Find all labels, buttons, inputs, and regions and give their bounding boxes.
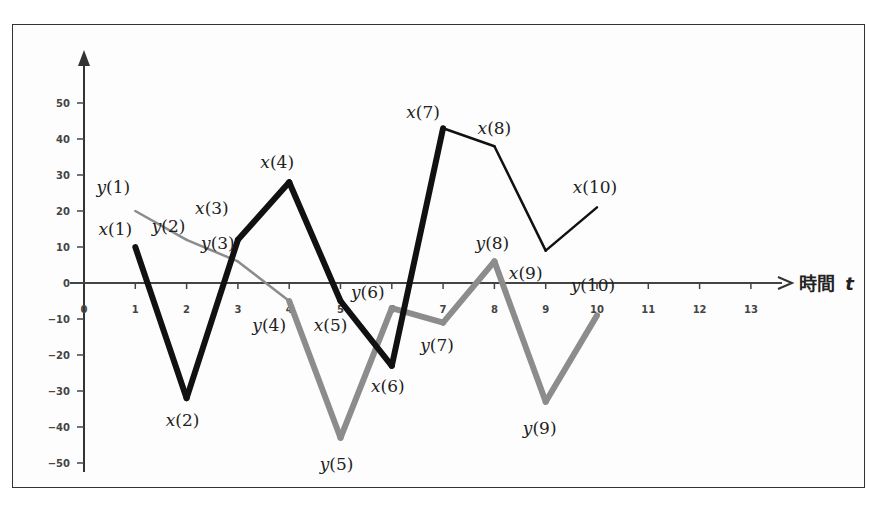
x-tick-label: 0 — [81, 304, 88, 315]
x-point-label: x(5) — [314, 315, 348, 335]
y-point-label: y(7) — [419, 335, 454, 355]
x-segment — [392, 128, 443, 366]
y-tick-label: 50 — [56, 98, 70, 109]
label-index: (10) — [582, 177, 617, 197]
label-index: (8) — [485, 233, 509, 253]
x-point-label: x(4) — [260, 152, 294, 172]
x-segment — [135, 247, 186, 398]
label-variable: x — [371, 376, 381, 396]
label-index: (6) — [361, 282, 385, 302]
y-point-label: y(1) — [95, 177, 130, 197]
x-axis-title-text: 時間 — [799, 273, 835, 294]
x-tick-label: 7 — [440, 304, 447, 315]
x-segment — [187, 240, 238, 398]
y-tick-label: −50 — [48, 458, 70, 469]
y-tick-label: −30 — [48, 386, 70, 397]
label-index: (9) — [518, 263, 542, 283]
x-tick-label: 1 — [132, 304, 139, 315]
y-point-label: y(2) — [151, 216, 186, 236]
label-variable: y — [319, 454, 330, 474]
label-variable: y — [475, 233, 486, 253]
x-segment — [238, 182, 289, 240]
x-axis-title-var: t — [845, 273, 855, 294]
x-tick-label: 3 — [234, 304, 241, 315]
label-index: (3) — [205, 198, 229, 218]
label-variable: y — [251, 315, 262, 335]
point-labels: x(1)x(2)x(3)x(4)x(5)x(6)x(7)x(8)x(9)x(10… — [95, 102, 617, 474]
y-segment — [546, 315, 597, 401]
y-axis-arrow-icon — [78, 50, 90, 66]
y-point-label: y(4) — [251, 315, 286, 335]
label-variable: x — [314, 315, 324, 335]
label-variable: y — [419, 335, 430, 355]
label-index: (1) — [106, 177, 130, 197]
x-segment — [546, 207, 597, 250]
y-tick-label: −10 — [48, 314, 70, 325]
label-index: (5) — [323, 315, 347, 335]
label-variable: x — [509, 263, 519, 283]
x-tick-label: 2 — [183, 304, 190, 315]
label-index: (10) — [580, 275, 615, 295]
x-point-label: x(9) — [509, 263, 543, 283]
x-point-label: x(2) — [166, 410, 200, 430]
label-index: (9) — [532, 418, 556, 438]
y-segment — [341, 308, 392, 438]
label-index: (1) — [108, 219, 132, 239]
x-point-label: x(6) — [371, 376, 405, 396]
y-tick-label: 10 — [56, 242, 70, 253]
label-variable: x — [573, 177, 583, 197]
x-point-label: x(7) — [406, 102, 440, 122]
y-tick-label: 40 — [56, 134, 70, 145]
y-point-label: y(8) — [475, 233, 510, 253]
x-tick-label: 13 — [744, 304, 758, 315]
label-index: (8) — [487, 118, 511, 138]
y-tick-label: 20 — [56, 206, 70, 217]
y-tick-label: 30 — [56, 170, 70, 181]
y-tick-label: −20 — [48, 350, 70, 361]
y-tick-label: 0 — [63, 278, 70, 289]
x-axis-title: 時間 t — [799, 273, 855, 294]
label-index: (4) — [270, 152, 294, 172]
x-tick-label: 12 — [693, 304, 707, 315]
label-index: (7) — [416, 102, 440, 122]
label-variable: x — [478, 118, 488, 138]
x-tick-label: 9 — [542, 304, 549, 315]
label-variable: y — [200, 233, 211, 253]
label-variable: y — [350, 282, 361, 302]
label-index: (2) — [175, 410, 199, 430]
label-variable: y — [95, 177, 106, 197]
y-point-label: y(5) — [319, 454, 354, 474]
label-index: (5) — [329, 454, 353, 474]
label-index: (4) — [262, 315, 286, 335]
label-variable: x — [406, 102, 416, 122]
x-point-label: x(1) — [98, 219, 132, 239]
y-point-label: y(3) — [200, 233, 235, 253]
x-point-label: x(8) — [478, 118, 512, 138]
x-tick-label: 8 — [491, 304, 498, 315]
y-point-label: y(9) — [522, 418, 557, 438]
label-variable: x — [195, 198, 205, 218]
label-variable: y — [522, 418, 533, 438]
x-point-label: x(3) — [195, 198, 229, 218]
label-variable: x — [166, 410, 176, 430]
x-tick-label: 11 — [641, 304, 655, 315]
y-point-label: y(6) — [350, 282, 385, 302]
label-index: (6) — [381, 376, 405, 396]
y-point-label: y(10) — [570, 275, 616, 295]
y-tick-label: −40 — [48, 422, 70, 433]
label-variable: x — [260, 152, 270, 172]
y-segment — [443, 261, 494, 322]
label-index: (3) — [211, 233, 235, 253]
label-index: (7) — [430, 335, 454, 355]
line-chart: 50403020100−10−20−30−40−5001234567891011… — [0, 0, 883, 512]
label-variable: y — [570, 275, 581, 295]
label-variable: x — [98, 219, 108, 239]
x-point-label: x(10) — [573, 177, 618, 197]
y-segment — [238, 261, 289, 301]
label-index: (2) — [161, 216, 185, 236]
label-variable: y — [151, 216, 162, 236]
